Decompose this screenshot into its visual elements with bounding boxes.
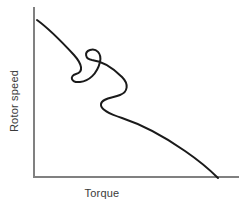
y-axis-label: Rotor speed <box>8 56 20 146</box>
chart-plot-area <box>0 0 247 208</box>
x-axis-label: Torque <box>0 187 204 199</box>
torque-speed-curve <box>37 20 218 178</box>
torque-speed-chart: Rotor speed Torque <box>0 0 247 208</box>
